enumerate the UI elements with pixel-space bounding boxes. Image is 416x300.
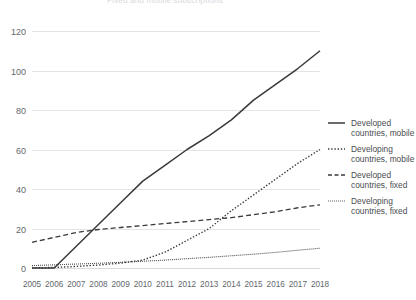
- y-tick-label: 40: [16, 185, 26, 195]
- y-tick-label: 20: [16, 225, 26, 235]
- y-tick-label: 80: [16, 106, 26, 116]
- y-tick-label: 100: [11, 67, 26, 77]
- x-tick-label: 2015: [244, 280, 263, 289]
- line-chart-plot: 020406080100120 200520062007200820092010…: [0, 0, 416, 300]
- y-tick-label: 120: [11, 27, 26, 37]
- x-tick-label: 2009: [112, 280, 131, 289]
- chart-legend: Developedcountries, mobileDevelopingcoun…: [328, 118, 415, 216]
- legend-label-line2: countries, mobile: [351, 128, 415, 138]
- y-tick-label: 60: [16, 146, 26, 156]
- legend-label-line2: countries, fixed: [351, 180, 408, 190]
- x-tick-label: 2012: [178, 280, 197, 289]
- x-tick-label: 2016: [267, 280, 286, 289]
- data-series-group: [32, 51, 320, 268]
- x-tick-label: 2010: [134, 280, 153, 289]
- x-tick-label: 2007: [67, 280, 86, 289]
- x-tick-label: 2006: [45, 280, 64, 289]
- x-axis-tick-labels: 2005200620072008200920102011201220132014…: [23, 280, 330, 289]
- series-line-1: [32, 150, 320, 269]
- x-tick-label: 2017: [289, 280, 308, 289]
- x-tick-label: 2018: [311, 280, 330, 289]
- y-axis-tick-labels: 020406080100120: [11, 27, 26, 274]
- x-tick-label: 2014: [222, 280, 241, 289]
- x-tick-label: 2005: [23, 280, 42, 289]
- legend-label-line1: Developing: [351, 196, 393, 206]
- legend-label-line1: Developing: [351, 144, 393, 154]
- x-tick-label: 2013: [200, 280, 219, 289]
- y-tick-label: 0: [21, 264, 26, 274]
- x-tick-label: 2008: [89, 280, 108, 289]
- legend-label-line1: Developed: [351, 118, 391, 128]
- x-tick-label: 2011: [156, 280, 174, 289]
- chart-container: Fixed and mobile subscriptions 020406080…: [0, 0, 416, 300]
- legend-label-line2: countries, fixed: [351, 206, 408, 216]
- legend-label-line1: Developed: [351, 170, 391, 180]
- series-line-2: [32, 205, 320, 243]
- legend-label-line2: countries, mobile: [351, 154, 415, 164]
- series-line-0: [32, 51, 320, 268]
- series-line-3: [32, 248, 320, 265]
